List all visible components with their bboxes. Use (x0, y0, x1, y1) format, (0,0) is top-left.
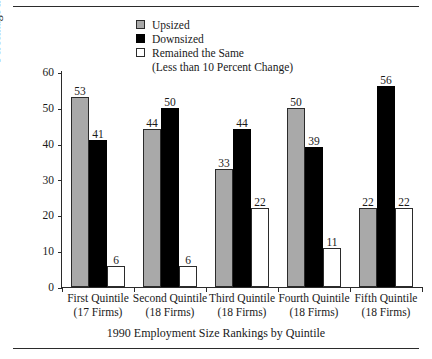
bar-value-label: 6 (185, 254, 191, 266)
y-axis-tick-40: 40 (43, 138, 63, 150)
x-axis-tick (62, 287, 63, 292)
y-axis-tick-20: 20 (43, 209, 63, 221)
bar-value-label: 33 (218, 157, 230, 169)
bar-remained-the-same[interactable]: 6 (107, 266, 125, 288)
y-axis-tick-10: 10 (43, 245, 63, 257)
bar-value-label: 50 (290, 96, 302, 108)
x-axis-title: 1990 Employment Size Rankings by Quintil… (0, 326, 432, 341)
y-axis-tick-60: 60 (43, 66, 63, 78)
legend-label-remained-the-same: Remained the Same (152, 46, 244, 60)
bar-value-label: 53 (74, 85, 86, 97)
bar-upsized[interactable]: 22 (359, 208, 377, 287)
x-axis-tick (206, 287, 207, 292)
x-axis-tick (134, 287, 135, 292)
top-divider-rule (13, 6, 419, 7)
bar-group: 225622 (359, 72, 413, 287)
legend-label-downsized: Downsized (152, 32, 204, 46)
legend-item-upsized: Upsized (136, 18, 366, 32)
y-axis-title: Percentage in Each Category (0, 0, 5, 88)
bar-downsized[interactable]: 39 (305, 147, 323, 287)
bar-group: 44506 (143, 72, 197, 287)
bar-group: 334422 (215, 72, 269, 287)
category-name: Fifth Quintile (344, 291, 428, 305)
bar-value-label: 6 (113, 254, 119, 266)
bar-value-label: 50 (164, 96, 176, 108)
bar-upsized[interactable]: 50 (287, 108, 305, 287)
bar-value-label: 56 (380, 74, 392, 86)
bar-downsized[interactable]: 41 (89, 140, 107, 287)
bar-upsized[interactable]: 53 (71, 97, 89, 287)
x-axis-tick (278, 287, 279, 292)
x-axis-line (61, 287, 422, 288)
bar-upsized[interactable]: 44 (143, 129, 161, 287)
y-axis-tick-30: 30 (43, 174, 63, 186)
bar-group: 503911 (287, 72, 341, 287)
legend-label-upsized: Upsized (152, 18, 190, 32)
bar-value-label: 22 (362, 196, 374, 208)
bar-value-label: 44 (146, 117, 158, 129)
x-axis-tick (350, 287, 351, 292)
legend-item-downsized: Downsized (136, 32, 366, 46)
bar-downsized[interactable]: 50 (161, 108, 179, 287)
bar-downsized[interactable]: 44 (233, 129, 251, 287)
y-axis-tick-50: 50 (43, 102, 63, 114)
bar-remained-the-same[interactable]: 6 (179, 266, 197, 288)
bar-value-label: 22 (254, 196, 266, 208)
bar-upsized[interactable]: 33 (215, 169, 233, 287)
legend-swatch-remained-the-same-icon (136, 48, 145, 57)
bar-value-label: 11 (326, 236, 337, 248)
bar-remained-the-same[interactable]: 22 (251, 208, 269, 287)
bar-downsized[interactable]: 56 (377, 86, 395, 287)
bar-value-label: 44 (236, 117, 248, 129)
bar-value-label: 41 (92, 128, 104, 140)
x-axis-category-label: Fifth Quintile(18 Firms) (344, 291, 428, 319)
bar-remained-the-same[interactable]: 22 (395, 208, 413, 287)
bar-value-label: 39 (308, 135, 320, 147)
category-firm-count: (18 Firms) (344, 305, 428, 319)
legend-swatch-downsized-icon (136, 34, 145, 43)
bar-remained-the-same[interactable]: 11 (323, 248, 341, 287)
legend-item-remained-the-same: Remained the Same (136, 46, 366, 60)
bottom-divider-rule (13, 348, 419, 349)
legend-swatch-upsized-icon (136, 20, 145, 29)
x-axis-tick (422, 287, 423, 292)
bar-value-label: 22 (398, 196, 410, 208)
figure: Upsized Downsized Remained the Same (Les… (0, 0, 432, 359)
plot-area: 0102030405060534164450633442250391122562… (62, 72, 422, 287)
bar-group: 53416 (71, 72, 125, 287)
chart-legend: Upsized Downsized Remained the Same (Les… (136, 18, 366, 74)
